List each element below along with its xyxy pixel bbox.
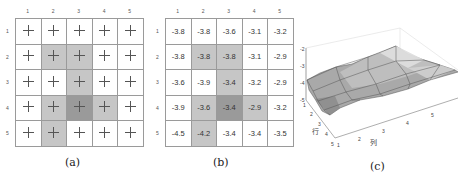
grid-cell	[92, 44, 118, 70]
plus-icon	[125, 76, 136, 87]
row-axis-label: 行	[312, 126, 319, 136]
row-label: 2	[6, 54, 9, 60]
plus-icon	[48, 101, 59, 112]
plus-icon	[125, 25, 136, 36]
grid-table	[15, 18, 144, 147]
grid-cell	[118, 44, 144, 70]
plus-icon	[125, 127, 136, 138]
grid-cell: -3.4	[217, 121, 243, 147]
row-label: 4	[6, 105, 9, 111]
grid-row	[16, 70, 144, 96]
grid-cell	[67, 121, 93, 147]
grid-row	[16, 19, 144, 45]
z-tick: -3	[300, 63, 304, 69]
plus-icon	[74, 76, 85, 87]
grid-cell: -2.9	[268, 70, 294, 96]
col-tick: 4	[406, 120, 409, 126]
plus-icon	[125, 101, 136, 112]
grid-cell: -3.6	[217, 19, 243, 45]
grid-cell	[92, 70, 118, 96]
grid-cell: -3.2	[268, 19, 294, 45]
plus-icon	[48, 25, 59, 36]
col-axis-label: 列	[370, 137, 377, 147]
grid-cell: -3.8	[191, 44, 217, 70]
grid-row	[16, 121, 144, 147]
grid-cell: -2.9	[242, 95, 268, 121]
grid-cell	[118, 121, 144, 147]
z-tick: -4	[300, 80, 304, 86]
caption-b: (b)	[213, 156, 229, 169]
grid-row	[16, 95, 144, 121]
grid-row: -3.8-3.8-3.6-3.1-3.2	[166, 19, 294, 45]
grid-cell: -4.5	[166, 121, 192, 147]
grid-cell	[67, 19, 93, 45]
plus-icon	[48, 76, 59, 87]
plus-icon	[48, 50, 59, 61]
col-tick: 1	[337, 142, 340, 148]
plus-icon	[23, 101, 34, 112]
grid-cell: -4.2	[191, 121, 217, 147]
column-label: 3	[66, 8, 92, 14]
grid-cell: -3.8	[166, 19, 192, 45]
grid-cell	[118, 70, 144, 96]
grid-cell: -3.4	[217, 95, 243, 121]
grid-cell: -3.4	[217, 70, 243, 96]
caption-c: (c)	[370, 160, 385, 173]
row-label: 5	[6, 130, 9, 136]
plus-icon	[99, 127, 110, 138]
grid-cell	[118, 19, 144, 45]
row-label: 1	[6, 28, 9, 34]
surface-plot-graphic	[300, 0, 469, 182]
grid-row: -3.8-3.8-3.8-3.1-2.9	[166, 44, 294, 70]
plus-icon	[74, 101, 85, 112]
plus-icon	[125, 50, 136, 61]
caption-a: (a)	[65, 156, 80, 169]
row-tick: 2	[310, 111, 313, 117]
grid-cell	[41, 70, 67, 96]
column-label: 3	[216, 8, 242, 14]
grid-row: -3.9-3.6-3.4-2.9-3.2	[166, 95, 294, 121]
grid-table: -3.8-3.8-3.6-3.1-3.2-3.8-3.8-3.8-3.1-2.9…	[165, 18, 294, 147]
grid-cell	[16, 44, 42, 70]
plus-icon	[74, 50, 85, 61]
column-label: 5	[267, 8, 293, 14]
panel-c-surface-plot: -2 -3 -4 -5 1 2 3 4 5 行 1 2 3 4 5 列	[300, 0, 469, 182]
col-tick: 5	[431, 112, 434, 118]
col-tick: 3	[382, 128, 385, 134]
plus-icon	[99, 101, 110, 112]
row-tick: 4	[325, 131, 328, 137]
grid-row: -4.5-4.2-3.4-3.4-3.5	[166, 121, 294, 147]
grid-cell	[41, 121, 67, 147]
grid-cell	[92, 95, 118, 121]
row-tick: 5	[331, 141, 334, 147]
panel-a: 1234512345	[0, 0, 150, 182]
grid-cell: -3.9	[191, 70, 217, 96]
plus-icon	[99, 50, 110, 61]
grid-cell	[67, 70, 93, 96]
grid-cell: -3.6	[166, 70, 192, 96]
plus-icon	[48, 127, 59, 138]
grid-cell: -3.8	[191, 19, 217, 45]
row-label: 3	[156, 79, 159, 85]
plus-icon	[74, 25, 85, 36]
grid-cell	[67, 95, 93, 121]
plus-icon	[23, 50, 34, 61]
grid-row: -3.6-3.9-3.4-3.2-2.9	[166, 70, 294, 96]
grid-cell: -3.9	[166, 95, 192, 121]
grid-cell: -3.5	[268, 121, 294, 147]
grid-cell: -3.1	[242, 19, 268, 45]
grid-cell: -3.2	[268, 95, 294, 121]
row-label: 3	[6, 79, 9, 85]
column-label: 2	[191, 8, 217, 14]
grid-cell	[16, 95, 42, 121]
column-label: 2	[41, 8, 67, 14]
plus-icon	[23, 25, 34, 36]
plus-icon	[74, 127, 85, 138]
grid-cell	[92, 19, 118, 45]
grid-cell: -2.9	[268, 44, 294, 70]
grid-cell	[67, 44, 93, 70]
col-tick: 2	[358, 136, 361, 142]
grid-cell: -3.8	[217, 44, 243, 70]
grid-cell: -3.6	[191, 95, 217, 121]
plus-icon	[99, 25, 110, 36]
